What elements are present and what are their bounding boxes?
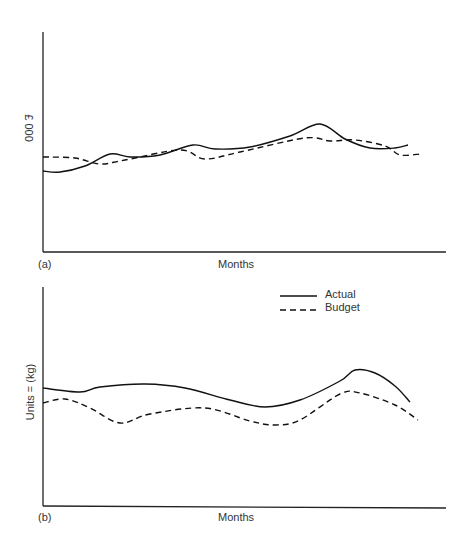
chart-b-budget-line bbox=[43, 391, 418, 425]
chart-a-budget-line bbox=[43, 138, 420, 164]
chart-b-y-axis-label: Units = (kg) bbox=[24, 359, 36, 425]
chart-b-axes bbox=[43, 287, 446, 508]
chart-a-y-axis-label: £ 000 bbox=[23, 113, 35, 143]
chart-b-x-axis-label: Months bbox=[218, 511, 254, 523]
chart-a-panel-label: (a) bbox=[38, 258, 51, 270]
chart-a-x-axis-label: Months bbox=[218, 258, 254, 270]
charts-canvas bbox=[0, 0, 469, 558]
legend-budget-label: Budget bbox=[325, 301, 360, 313]
chart-b-legend bbox=[280, 296, 317, 310]
chart-b-panel-label: (b) bbox=[38, 511, 51, 523]
legend-actual-label: Actual bbox=[325, 288, 356, 300]
chart-a-axes bbox=[43, 32, 446, 252]
chart-a-actual-line bbox=[43, 124, 408, 172]
chart-b-actual-line bbox=[43, 370, 410, 407]
